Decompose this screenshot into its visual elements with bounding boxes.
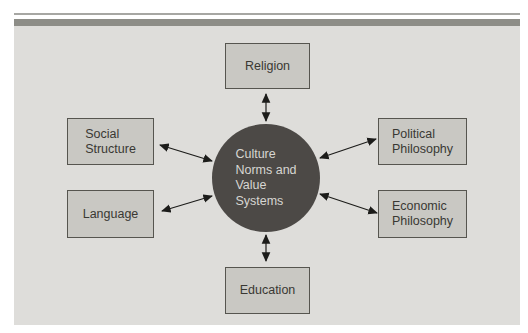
node-culture-center-label: Culture Norms and Value Systems [235,147,296,209]
connector-social-structure [160,145,212,161]
node-economic-philosophy: Economic Philosophy [378,190,467,238]
node-political-philosophy: Political Philosophy [378,118,467,165]
node-social-structure-label: Social Structure [85,127,136,157]
node-political-philosophy-label: Political Philosophy [392,127,453,157]
node-economic-philosophy-label: Economic Philosophy [392,199,453,229]
node-religion: Religion [225,43,310,89]
node-education-label: Education [240,283,296,298]
node-education: Education [225,267,310,314]
node-social-structure: Social Structure [67,118,154,165]
connector-language [162,196,212,211]
diagram-page: Religion Social Structure Language Polit… [0,0,528,333]
node-culture-center: Culture Norms and Value Systems [212,124,320,232]
connector-economic-philosophy [320,194,377,213]
connector-political-philosophy [320,139,376,158]
node-language-label: Language [83,207,139,222]
node-religion-label: Religion [245,59,290,74]
node-language: Language [67,190,154,238]
